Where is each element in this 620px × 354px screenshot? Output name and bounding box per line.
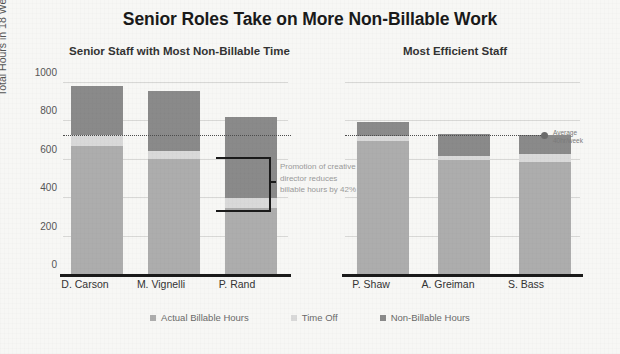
average-reference-line-left	[63, 135, 291, 136]
average-label-line1: Average	[553, 129, 583, 137]
bar-s-bass[interactable]	[519, 135, 571, 275]
panel-title-right: Most Efficient Staff	[330, 45, 580, 57]
bar-segment-time-off	[71, 135, 123, 147]
x-tick-p-shaw: P. Shaw	[341, 278, 401, 290]
x-tick-m-vignelli: M. Vignelli	[128, 278, 194, 290]
y-tick-label: 800	[40, 105, 57, 116]
bar-m-vignelli[interactable]	[148, 91, 200, 275]
annotation-bracket	[216, 157, 271, 212]
bar-segment-non-billable	[71, 86, 123, 135]
average-marker-dot	[541, 132, 548, 139]
annotation-text: Promotion of creative director reduces b…	[280, 161, 364, 196]
y-tick-label: 200	[40, 220, 57, 231]
legend-item-time-off[interactable]: Time Off	[291, 312, 338, 323]
chart-canvas: Senior Roles Take on More Non-Billable W…	[0, 0, 620, 354]
average-reference-line-right	[345, 135, 541, 136]
gridline	[63, 82, 288, 83]
x-axis-left	[60, 274, 291, 277]
bar-segment-time-off	[148, 151, 200, 159]
legend-item-actual-billable-hours[interactable]: Actual Billable Hours	[150, 312, 249, 323]
legend-label: Actual Billable Hours	[161, 312, 249, 323]
x-tick-a-greiman: A. Greiman	[414, 278, 482, 290]
bar-segment-billable	[519, 162, 571, 275]
bar-segment-non-billable	[357, 122, 409, 135]
y-tick-label: 400	[40, 182, 57, 193]
average-line-label: Average 40hr/week	[553, 129, 583, 145]
bar-a-greiman[interactable]	[438, 134, 490, 275]
x-tick-s-bass: S. Bass	[496, 278, 556, 290]
bar-segment-non-billable	[438, 134, 490, 156]
bar-segment-billable	[148, 159, 200, 275]
bar-segment-time-off	[519, 154, 571, 162]
gridline	[345, 82, 580, 83]
bar-segment-non-billable	[148, 91, 200, 151]
gridline	[345, 120, 580, 121]
annotation-bracket-tick	[269, 181, 276, 183]
y-tick-label: 0	[51, 259, 57, 270]
x-tick-d-carson: D. Carson	[55, 278, 115, 290]
bar-segment-billable	[438, 160, 490, 275]
legend-item-non-billable-hours[interactable]: Non-Billable Hours	[380, 312, 470, 323]
bar-segment-billable	[357, 141, 409, 275]
x-tick-p-rand: P. Rand	[207, 278, 267, 290]
bar-d-carson[interactable]	[71, 86, 123, 275]
bar-segment-billable	[225, 208, 277, 275]
bar-p-shaw[interactable]	[357, 122, 409, 275]
legend-label: Time Off	[302, 312, 338, 323]
y-tick-label: 1000	[35, 67, 57, 78]
legend-swatch-icon	[380, 315, 386, 321]
y-tick-label: 600	[40, 143, 57, 154]
chart-title: Senior Roles Take on More Non-Billable W…	[0, 9, 620, 30]
chart-legend: Actual Billable Hours Time Off Non-Billa…	[0, 312, 620, 323]
bar-segment-billable	[71, 146, 123, 275]
average-label-line2: 40hr/week	[553, 137, 583, 145]
x-axis-right	[342, 274, 583, 277]
panel-title-left: Senior Staff with Most Non-Billable Time	[42, 45, 317, 57]
legend-swatch-icon	[150, 315, 156, 321]
plot-area-right	[345, 83, 580, 275]
legend-swatch-icon	[291, 315, 297, 321]
legend-label: Non-Billable Hours	[391, 312, 470, 323]
y-axis-label: Total Hours in 18 Weeks	[0, 0, 8, 96]
